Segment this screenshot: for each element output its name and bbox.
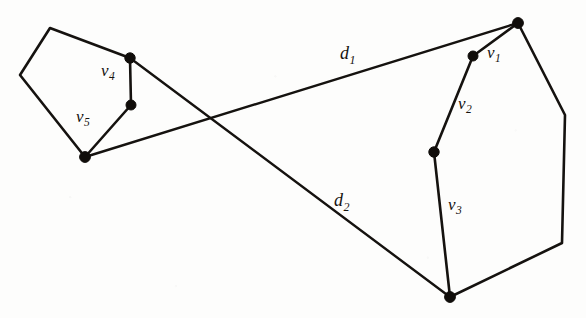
marker-v4-v5 bbox=[126, 100, 136, 110]
distance-line-d1 bbox=[85, 23, 518, 157]
label-d1-subscript: 1 bbox=[349, 53, 356, 67]
label-d1: d1 bbox=[340, 44, 356, 66]
label-v1-base: v bbox=[487, 43, 495, 62]
label-d2: d2 bbox=[334, 191, 350, 213]
label-d2-base: d bbox=[334, 190, 343, 210]
label-v1-subscript: 1 bbox=[495, 52, 501, 64]
marker-v1 bbox=[468, 51, 478, 61]
label-v5-base: v bbox=[76, 107, 84, 126]
marker-left-bottom bbox=[80, 152, 91, 163]
label-v3-base: v bbox=[448, 195, 456, 214]
label-v2: v2 bbox=[458, 95, 472, 116]
marker-bottom bbox=[445, 292, 456, 303]
figure-canvas: d1 d2 v1 v2 v3 v4 v5 bbox=[0, 0, 586, 318]
marker-v2-v3 bbox=[429, 147, 439, 157]
label-v5-subscript: 5 bbox=[84, 116, 90, 128]
label-v4-subscript: 4 bbox=[109, 70, 115, 82]
label-v3-subscript: 3 bbox=[456, 204, 462, 216]
left-polygon bbox=[20, 28, 131, 157]
label-v4: v4 bbox=[101, 62, 115, 83]
marker-top-right bbox=[513, 18, 524, 29]
label-v2-subscript: 2 bbox=[466, 103, 472, 115]
label-v2-base: v bbox=[458, 94, 466, 113]
marker-v4-top bbox=[125, 53, 135, 63]
label-d2-subscript: 2 bbox=[343, 200, 350, 214]
label-d1-base: d bbox=[340, 43, 349, 63]
label-v1: v1 bbox=[487, 44, 501, 65]
label-v5: v5 bbox=[76, 108, 90, 129]
label-v3: v3 bbox=[448, 196, 462, 217]
label-v4-base: v bbox=[101, 61, 109, 80]
